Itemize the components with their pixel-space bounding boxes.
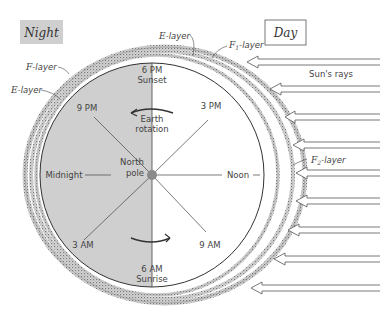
day-label: Day [273, 26, 298, 40]
sunrise-label: Sunrise [136, 274, 168, 284]
sun-ray-arrow-icon [285, 111, 380, 123]
e-layer-night-label: E-layer [10, 85, 42, 95]
north-pole-line1: North [120, 157, 144, 167]
sun-ray-arrow-icon [274, 253, 380, 265]
six-pm-label: 6 PM [142, 65, 163, 75]
night-box: Night [20, 20, 63, 44]
sun-ray-arrow-icon [296, 167, 380, 179]
sun-rays-label: Sun's rays [309, 69, 353, 79]
noon-label: Noon [227, 170, 249, 180]
midnight-label: Midnight [46, 170, 84, 180]
three-am-label: 3 AM [72, 240, 93, 250]
sun-rays [247, 56, 380, 294]
sun-ray-arrow-icon [293, 139, 380, 151]
f2-layer-label: F2-layer [310, 155, 346, 166]
e-layer-top-label: E-layer [158, 31, 190, 41]
sun-ray-arrow-icon [296, 195, 380, 207]
f1-layer-label: F1-layer [228, 40, 264, 51]
sun-ray-arrow-icon [288, 224, 380, 236]
f-layer-night-label: F-layer [25, 62, 57, 72]
nine-am-label: 9 AM [199, 240, 220, 250]
six-am-label: 6 AM [141, 264, 162, 274]
north-pole-line2: pole [126, 168, 144, 178]
diagram-canvas: Night Day E-layer F1-layer F-layer E-lay… [0, 0, 390, 319]
three-pm-label: 3 PM [201, 101, 222, 111]
night-label: Night [23, 26, 59, 40]
north-pole-dot [147, 170, 157, 180]
ionosphere-diagram: Night Day E-layer F1-layer F-layer E-lay… [0, 0, 390, 319]
day-box: Day [265, 20, 306, 45]
nine-pm-label: 9 PM [77, 103, 98, 113]
sunset-label: Sunset [137, 75, 167, 85]
sun-ray-arrow-icon [251, 282, 380, 294]
earth-rotation-line2: rotation [135, 124, 168, 134]
sun-ray-arrow-icon [247, 56, 380, 68]
sun-ray-arrow-icon [270, 83, 380, 95]
earth-rotation-line1: Earth [141, 114, 164, 124]
